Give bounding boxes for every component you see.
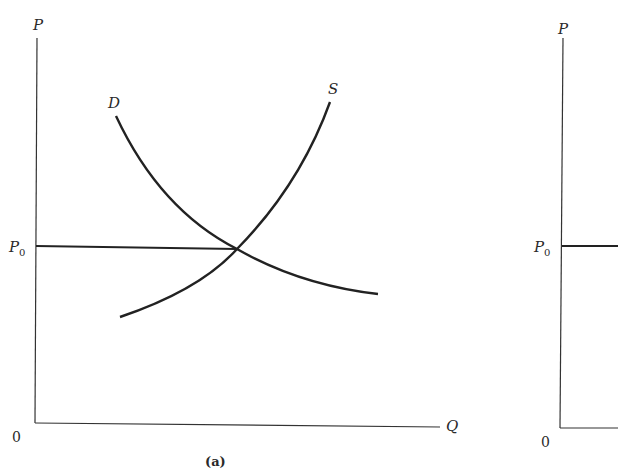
y-axis — [35, 38, 37, 423]
diagram-svg: P Q 0 P0 D S (a) P 0 P0 — [0, 0, 618, 472]
supply-curve — [120, 102, 330, 317]
y-axis-label: P — [32, 16, 44, 34]
p0-line — [36, 246, 237, 249]
p0-label: P0 — [8, 238, 25, 258]
x-axis — [35, 423, 440, 427]
panel-a: P Q 0 P0 D S (a) — [8, 16, 458, 469]
origin-label: 0 — [541, 434, 550, 450]
x-axis-label: Q — [446, 417, 458, 435]
p0-label: P0 — [533, 238, 550, 258]
origin-label: 0 — [12, 429, 21, 445]
panel-caption: (a) — [205, 454, 226, 469]
panel-b: P 0 P0 — [533, 20, 618, 450]
supply-demand-figure: P Q 0 P0 D S (a) P 0 P0 — [0, 0, 618, 472]
demand-label: D — [107, 94, 120, 112]
supply-label: S — [328, 80, 338, 98]
y-axis — [560, 38, 563, 428]
demand-curve — [116, 116, 378, 294]
y-axis-label: P — [557, 20, 569, 38]
